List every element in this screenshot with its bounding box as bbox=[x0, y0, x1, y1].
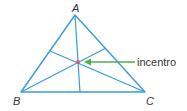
incenter-point bbox=[76, 60, 80, 64]
vertex-label-a: A bbox=[71, 2, 79, 14]
bisector-from-a bbox=[75, 15, 80, 92]
incenter-label: incentro bbox=[137, 56, 176, 68]
bisector-from-c bbox=[50, 51, 145, 92]
arrow-head-icon bbox=[84, 59, 91, 66]
incenter-diagram: incentro A B C bbox=[0, 0, 187, 111]
triangle-abc bbox=[21, 15, 145, 92]
vertex-label-b: B bbox=[13, 95, 20, 107]
vertex-label-c: C bbox=[146, 95, 154, 107]
